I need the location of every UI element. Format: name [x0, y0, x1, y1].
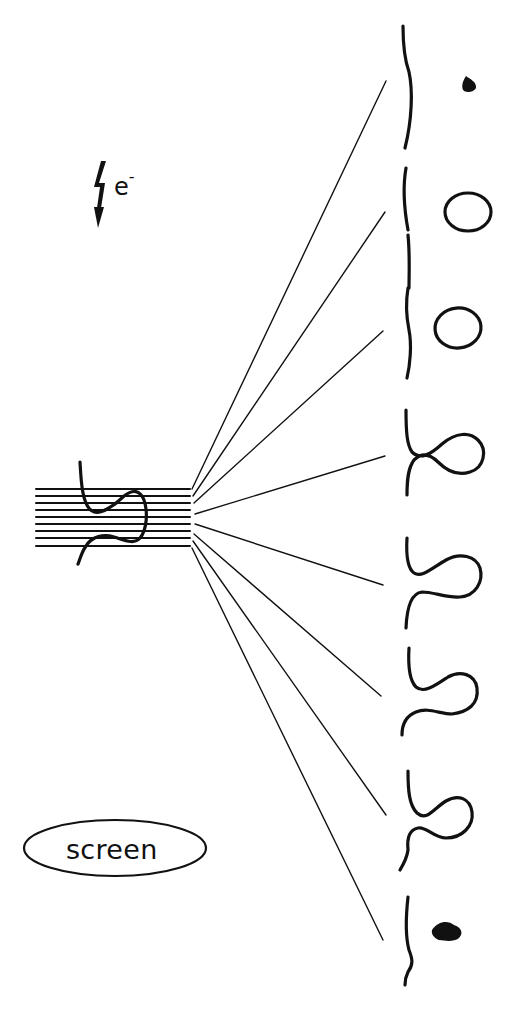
diffraction-rays	[192, 81, 386, 940]
projection-ellipse	[445, 193, 491, 231]
projection-dot	[462, 76, 476, 92]
screen-segment	[408, 235, 409, 288]
screen-segment	[404, 168, 408, 230]
screen-projections	[400, 26, 491, 985]
screen-segment	[405, 897, 412, 985]
projection-ellipse	[433, 306, 482, 350]
screen-segment	[403, 26, 411, 148]
screen-segment	[400, 771, 472, 870]
molecule-curve	[78, 462, 146, 564]
lightning-bolt-arrow-icon	[94, 161, 106, 228]
screen-segment	[402, 648, 477, 735]
screen-segment	[407, 288, 411, 378]
screen-segment	[406, 410, 484, 495]
projection-dot	[432, 922, 462, 941]
screen-label: screen	[66, 834, 158, 865]
screen-segment	[406, 538, 481, 628]
electron-label: e-	[114, 171, 135, 201]
